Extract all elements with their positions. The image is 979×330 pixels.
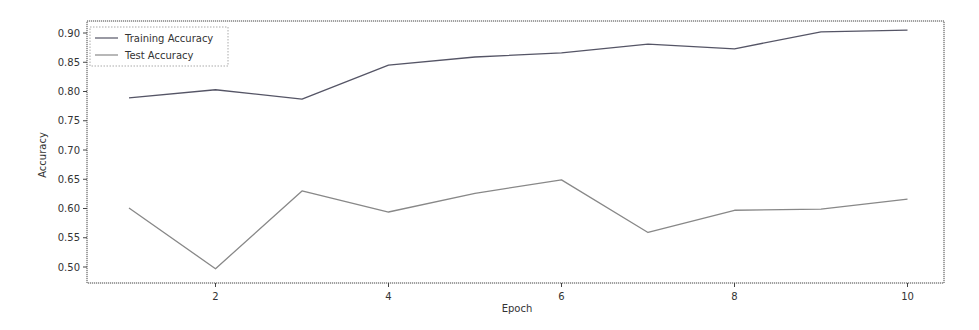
x-tick-label: 10: [901, 291, 914, 302]
accuracy-line-chart: 0.500.550.600.650.700.750.800.850.90 246…: [0, 0, 979, 330]
y-tick-label: 0.90: [58, 28, 80, 39]
legend-label-training: Training Accuracy: [124, 33, 213, 44]
series-lines: [129, 30, 908, 269]
y-tick-label: 0.80: [58, 86, 80, 97]
y-tick-label: 0.65: [58, 174, 80, 185]
y-tick-label: 0.60: [58, 203, 80, 214]
x-tick-label: 4: [385, 291, 391, 302]
x-axis-label: Epoch: [502, 303, 533, 314]
training-accuracy-line: [129, 30, 908, 99]
y-axis-label: Accuracy: [37, 132, 48, 178]
y-axis-ticks: 0.500.550.600.650.700.750.800.850.90: [58, 28, 87, 273]
x-tick-label: 6: [558, 291, 564, 302]
y-tick-label: 0.55: [58, 232, 80, 243]
y-tick-label: 0.75: [58, 115, 80, 126]
legend-label-test: Test Accuracy: [124, 50, 194, 61]
x-axis-ticks: 246810: [212, 283, 914, 302]
x-tick-label: 8: [731, 291, 737, 302]
x-tick-label: 2: [212, 291, 218, 302]
test-accuracy-line: [129, 180, 908, 269]
y-tick-label: 0.50: [58, 262, 80, 273]
legend: Training Accuracy Test Accuracy: [90, 27, 228, 66]
y-tick-label: 0.70: [58, 145, 80, 156]
y-tick-label: 0.85: [58, 57, 80, 68]
